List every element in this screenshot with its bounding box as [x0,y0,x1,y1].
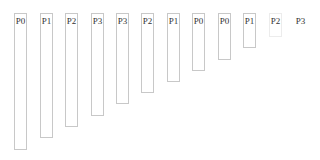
bar-label: P0 [219,16,230,26]
bar-9: P1 [243,13,256,48]
bar-label: P2 [270,16,281,26]
bar-5: P2 [141,13,154,93]
bar-2: P2 [65,13,78,127]
bar-label: P2 [66,16,77,26]
bar-11: P3 [294,13,307,27]
bar-label: P1 [244,16,255,26]
bar-6: P1 [167,13,180,82]
bar-label: P3 [92,16,103,26]
bar-label: P2 [142,16,153,26]
bar-label: P3 [295,16,306,26]
bar-3: P3 [91,13,104,116]
bar-label: P3 [117,16,128,26]
bar-4: P3 [116,13,129,104]
bar-label: P0 [15,16,26,26]
bar-8: P0 [218,13,231,60]
bar-label: P0 [193,16,204,26]
bar-label: P1 [41,16,52,26]
bar-label: P1 [168,16,179,26]
bar-7: P0 [192,13,205,71]
bar-10: P2 [269,13,282,37]
bar-0: P0 [14,13,27,150]
bar-1: P1 [40,13,53,138]
